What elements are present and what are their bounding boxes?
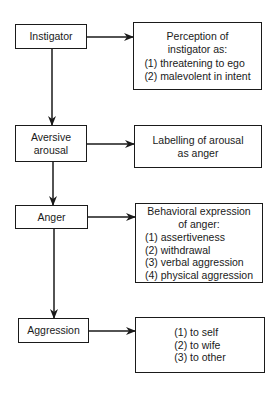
detail-box-perception: Perception of instigator as: (1) threate…	[133, 22, 262, 90]
labelling-title-line2: as anger	[178, 147, 219, 160]
behavior-list: (1) assertiveness (2) withdrawal (3) ver…	[145, 231, 253, 281]
stage-label-anger: Anger	[37, 211, 65, 224]
detail-box-aggression-targets: (1) to self (2) to wife (3) to other	[135, 317, 265, 373]
stage-label-aggression: Aggression	[27, 324, 80, 337]
detail-box-behavioral-expression: Behavioral expression of anger: (1) asse…	[135, 203, 263, 283]
targets-list: (1) to self (2) to wife (3) to other	[174, 326, 225, 364]
stage-label-aversive-line2: arousal	[34, 144, 68, 157]
perception-list: (1) threatening to ego (2) malevolent in…	[144, 57, 250, 82]
target-item: (2) to wife	[174, 339, 225, 352]
labelling-title-line1: Labelling of arousal	[152, 134, 243, 147]
behavior-item: (2) withdrawal	[145, 244, 253, 257]
perception-item: (1) threatening to ego	[144, 57, 250, 70]
stage-label-instigator: Instigator	[29, 30, 72, 43]
perception-title-line2: instigator as:	[168, 43, 228, 56]
behavior-item: (3) verbal aggression	[145, 256, 253, 269]
stage-box-anger: Anger	[15, 205, 88, 229]
stage-box-instigator: Instigator	[15, 24, 87, 49]
stage-box-aggression: Aggression	[18, 318, 89, 343]
behavior-item: (1) assertiveness	[145, 231, 253, 244]
perception-item: (2) malevolent in intent	[144, 70, 250, 83]
behavior-title-line2: of anger:	[178, 218, 219, 231]
detail-box-labelling: Labelling of arousal as anger	[134, 125, 262, 168]
stage-label-aversive-line1: Aversive	[31, 131, 71, 144]
target-item: (3) to other	[174, 351, 225, 364]
behavior-title-line1: Behavioral expression	[147, 205, 250, 218]
stage-box-aversive-arousal: Aversive arousal	[15, 125, 87, 162]
target-item: (1) to self	[174, 326, 225, 339]
perception-title-line1: Perception of	[167, 30, 229, 43]
behavior-item: (4) physical aggression	[145, 269, 253, 282]
